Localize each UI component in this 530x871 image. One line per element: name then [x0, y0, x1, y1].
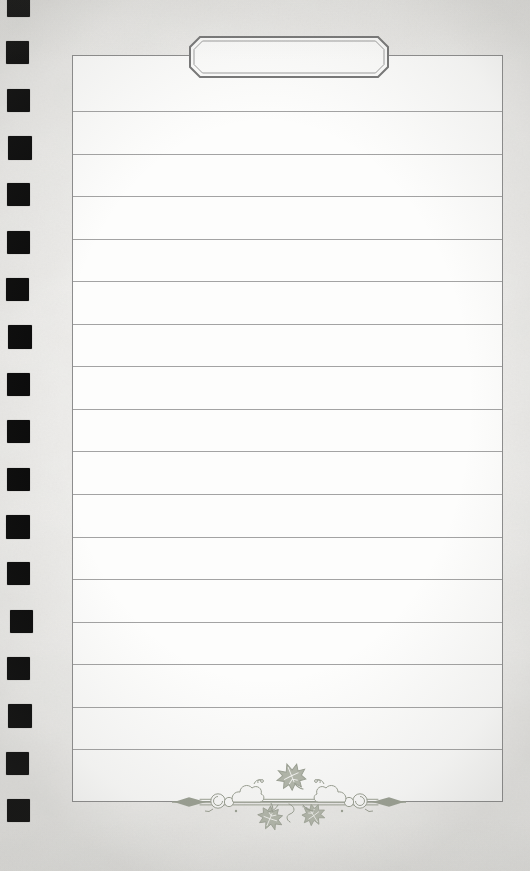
- binding-hole: [7, 562, 30, 585]
- ruled-line: [73, 707, 502, 708]
- notebook-page-scan: [0, 0, 530, 871]
- ruled-line: [73, 196, 502, 197]
- ruled-line: [73, 366, 502, 367]
- ruled-line: [73, 622, 502, 623]
- binding-hole: [7, 183, 30, 206]
- binding-hole: [6, 41, 29, 64]
- binding-hole: [7, 0, 30, 17]
- ruled-lines: [73, 56, 502, 801]
- binding-holes: [0, 0, 40, 871]
- floral-vine-ornament-icon: [172, 762, 406, 834]
- title-tab: [189, 36, 389, 78]
- ruled-line: [73, 409, 502, 410]
- ruled-line: [73, 537, 502, 538]
- binding-hole: [10, 610, 33, 633]
- ruled-line: [73, 451, 502, 452]
- ruled-line: [73, 494, 502, 495]
- ruled-line: [73, 749, 502, 750]
- binding-hole: [7, 468, 30, 491]
- binding-hole: [8, 704, 32, 728]
- binding-hole: [7, 799, 30, 822]
- binding-hole: [6, 515, 30, 539]
- ruled-line: [73, 324, 502, 325]
- binding-hole: [7, 231, 30, 254]
- binding-hole: [7, 420, 30, 443]
- binding-hole: [6, 278, 29, 301]
- ruled-line: [73, 664, 502, 665]
- paper-sheet: [72, 55, 503, 802]
- binding-hole: [8, 325, 32, 349]
- binding-hole: [7, 657, 30, 680]
- binding-hole: [7, 373, 30, 396]
- binding-hole: [8, 136, 32, 160]
- binding-hole: [7, 89, 30, 112]
- ruled-line: [73, 579, 502, 580]
- ruled-line: [73, 154, 502, 155]
- ruled-line: [73, 111, 502, 112]
- title-tab-text: [189, 36, 389, 78]
- ruled-line: [73, 239, 502, 240]
- ruled-line: [73, 281, 502, 282]
- binding-hole: [6, 752, 29, 775]
